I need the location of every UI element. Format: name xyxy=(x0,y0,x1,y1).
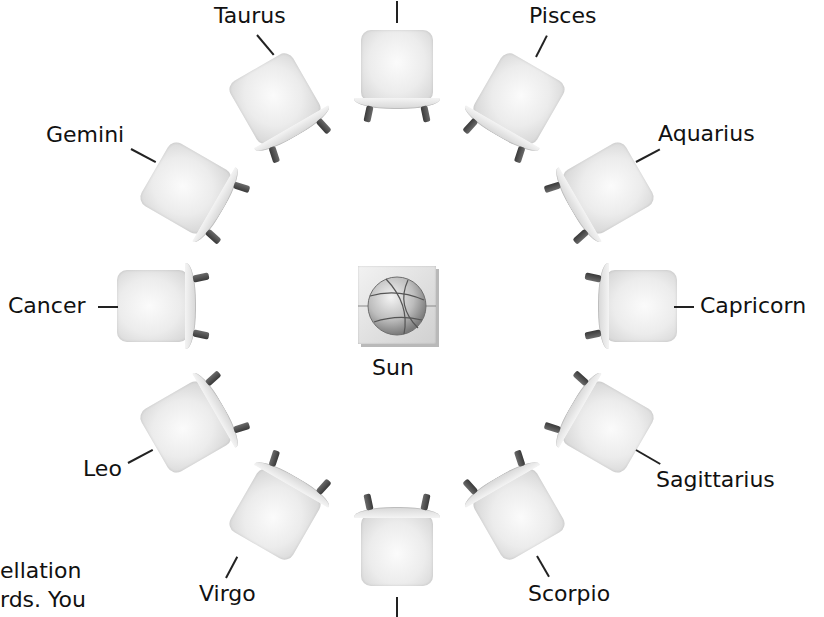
chair-sagittarius xyxy=(530,356,662,484)
leader-line-capricorn xyxy=(674,306,694,308)
leader-line-taurus xyxy=(256,34,274,55)
chair-leg xyxy=(316,118,332,135)
label-sagittarius: Sagittarius xyxy=(656,467,775,493)
leader-line-top xyxy=(396,1,398,23)
chair-leg xyxy=(544,422,561,434)
chair-back xyxy=(137,378,235,476)
leader-line-sagittarius xyxy=(636,449,661,465)
chair-gemini xyxy=(132,131,264,259)
chair-back xyxy=(361,514,433,586)
label-sun: Sun xyxy=(372,355,414,381)
chair-leg xyxy=(514,450,526,467)
chair-back xyxy=(470,50,568,148)
leader-line-pisces xyxy=(535,35,548,57)
chair-back xyxy=(470,465,568,563)
chair-leo xyxy=(132,356,264,484)
chair-taurus xyxy=(218,45,346,177)
chair-bottom xyxy=(352,486,442,586)
chair-leg xyxy=(363,493,373,510)
chair-leg xyxy=(233,182,250,194)
label-capricorn: Capricorn xyxy=(700,293,806,319)
chair-leg xyxy=(269,146,281,163)
chair-capricorn xyxy=(577,261,677,351)
chair-top xyxy=(352,30,442,130)
chair-leg xyxy=(420,105,430,122)
chair-leg xyxy=(205,229,222,245)
chair-back xyxy=(559,139,657,237)
chair-leg xyxy=(205,370,222,386)
chair-back xyxy=(226,465,324,563)
chair-back xyxy=(559,378,657,476)
chair-back xyxy=(605,270,677,342)
chair-leg xyxy=(420,493,430,510)
label-gemini: Gemini xyxy=(46,122,124,148)
chair-leg xyxy=(269,450,281,467)
label-cancer: Cancer xyxy=(8,293,85,319)
leader-line-aquarius xyxy=(636,148,661,162)
leader-line-gemini xyxy=(131,148,157,163)
body-text-line-2: rds. You xyxy=(0,586,86,614)
chair-leg xyxy=(584,272,601,282)
leader-line-virgo xyxy=(225,556,238,578)
chair-scorpio xyxy=(448,436,576,568)
chair-leg xyxy=(192,329,209,339)
chair-back xyxy=(361,30,433,102)
label-virgo: Virgo xyxy=(199,581,256,607)
chair-leg xyxy=(316,479,332,496)
sun-tile xyxy=(358,266,436,344)
leader-line-cancer xyxy=(98,306,118,308)
chair-leg xyxy=(514,146,526,163)
chair-pisces xyxy=(448,45,576,177)
chair-back xyxy=(137,139,235,237)
label-taurus: Taurus xyxy=(214,3,286,29)
chair-leg xyxy=(363,105,373,122)
chair-virgo xyxy=(218,436,346,568)
label-aquarius: Aquarius xyxy=(658,121,755,147)
chair-leg xyxy=(573,229,590,245)
chair-leg xyxy=(233,422,250,434)
label-scorpio: Scorpio xyxy=(528,581,610,607)
chair-leg xyxy=(462,118,478,135)
chair-leg xyxy=(584,329,601,339)
chair-cancer xyxy=(117,261,217,351)
chair-back xyxy=(117,270,189,342)
chair-leg xyxy=(544,182,561,194)
chair-aquarius xyxy=(530,131,662,259)
chair-back xyxy=(226,50,324,148)
leader-line-bottom xyxy=(396,597,398,617)
leader-line-scorpio xyxy=(536,556,550,578)
chair-leg xyxy=(192,272,209,282)
label-pisces: Pisces xyxy=(529,3,596,29)
leader-line-leo xyxy=(128,449,154,464)
body-text-line-1: ellation xyxy=(0,557,81,585)
label-leo: Leo xyxy=(83,456,122,482)
basketball-icon xyxy=(358,266,436,344)
